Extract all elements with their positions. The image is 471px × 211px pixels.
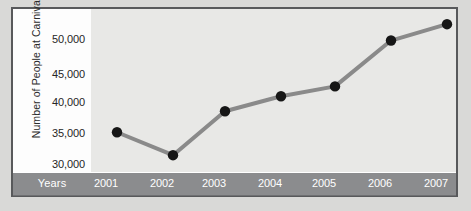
x-tick-label-2004: 2004 — [248, 177, 292, 189]
x-axis-title: Years — [13, 177, 91, 189]
x-tick-label-2005: 2005 — [302, 177, 346, 189]
y-tick-label-30000: 30,000 — [33, 159, 85, 170]
data-markers — [112, 19, 452, 160]
data-point-2003 — [220, 106, 230, 116]
data-point-2005 — [330, 81, 340, 91]
data-point-2004 — [276, 91, 286, 101]
x-tick-label-2006: 2006 — [358, 177, 402, 189]
data-point-2006 — [386, 35, 396, 45]
x-tick-label-2001: 2001 — [84, 177, 128, 189]
y-axis-panel: Number of People at Carnival 50,000 45,0… — [13, 9, 91, 172]
x-axis-band: Years 2001 2002 2003 2004 2005 2006 2007 — [13, 172, 456, 195]
y-tick-label-45000: 45,000 — [33, 69, 85, 80]
chart-frame: Number of People at Carnival 50,000 45,0… — [11, 7, 458, 197]
data-point-2007 — [442, 19, 452, 29]
x-axis-band-shadow — [13, 195, 456, 196]
x-tick-label-2002: 2002 — [140, 177, 184, 189]
y-tick-label-50000: 50,000 — [33, 34, 85, 45]
y-tick-label-35000: 35,000 — [33, 128, 85, 139]
line-chart-svg — [91, 9, 456, 172]
data-point-2002 — [168, 150, 178, 160]
data-line — [117, 24, 447, 155]
y-tick-label-40000: 40,000 — [33, 97, 85, 108]
x-tick-label-2003: 2003 — [192, 177, 236, 189]
chart-figure: Number of People at Carnival 50,000 45,0… — [0, 0, 471, 211]
x-tick-label-2007: 2007 — [414, 177, 458, 189]
plot-area — [91, 9, 456, 172]
data-point-2001 — [112, 127, 122, 137]
